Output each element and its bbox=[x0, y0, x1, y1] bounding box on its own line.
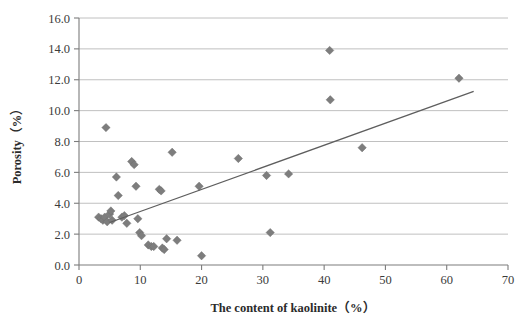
x-tick-label: 0 bbox=[76, 273, 82, 287]
x-tick-label: 60 bbox=[440, 273, 453, 287]
data-point-marker bbox=[114, 191, 122, 199]
y-tick-label: 10.0 bbox=[48, 104, 70, 118]
xtick-labels-group: 010203040506070 bbox=[76, 273, 514, 287]
data-point-marker bbox=[162, 235, 170, 243]
data-point-marker bbox=[168, 148, 176, 156]
y-tick-label: 2.0 bbox=[54, 228, 70, 242]
data-point-marker bbox=[325, 46, 333, 54]
gridlines-group bbox=[79, 18, 508, 234]
data-point-marker bbox=[197, 252, 205, 260]
data-point-marker bbox=[173, 236, 181, 244]
data-point-marker bbox=[326, 96, 334, 104]
y-tick-label: 6.0 bbox=[54, 166, 70, 180]
data-point-marker bbox=[102, 123, 110, 131]
data-point-marker bbox=[455, 74, 463, 82]
ytick-marks-group bbox=[74, 18, 79, 265]
ytick-labels-group: 0.02.04.06.08.010.012.014.016.0 bbox=[48, 12, 70, 273]
x-tick-label: 30 bbox=[257, 273, 270, 287]
y-tick-label: 4.0 bbox=[54, 197, 70, 211]
chart-canvas: 0.02.04.06.08.010.012.014.016.0 01020304… bbox=[0, 0, 523, 327]
y-tick-label: 14.0 bbox=[48, 42, 70, 56]
y-axis-title: Porosity（%） bbox=[9, 102, 24, 185]
xtick-marks-group bbox=[79, 265, 508, 270]
x-tick-label: 10 bbox=[134, 273, 147, 287]
x-tick-label: 70 bbox=[502, 273, 515, 287]
data-point-marker bbox=[123, 219, 131, 227]
x-tick-label: 50 bbox=[379, 273, 392, 287]
data-point-marker bbox=[266, 228, 274, 236]
x-tick-label: 40 bbox=[318, 273, 331, 287]
data-point-marker bbox=[134, 214, 142, 222]
scatter-chart: 0.02.04.06.08.010.012.014.016.0 01020304… bbox=[0, 0, 523, 327]
data-point-marker bbox=[284, 170, 292, 178]
x-tick-label: 20 bbox=[195, 273, 208, 287]
data-point-marker bbox=[112, 173, 120, 181]
y-tick-label: 12.0 bbox=[48, 73, 70, 87]
y-tick-label: 0.0 bbox=[54, 259, 70, 273]
data-point-marker bbox=[358, 143, 366, 151]
data-points-group bbox=[94, 46, 463, 260]
data-point-marker bbox=[132, 182, 140, 190]
data-point-marker bbox=[234, 154, 242, 162]
y-tick-label: 16.0 bbox=[48, 12, 70, 26]
y-tick-label: 8.0 bbox=[54, 135, 70, 149]
x-axis-title: The content of kaolinite（%） bbox=[210, 300, 375, 315]
